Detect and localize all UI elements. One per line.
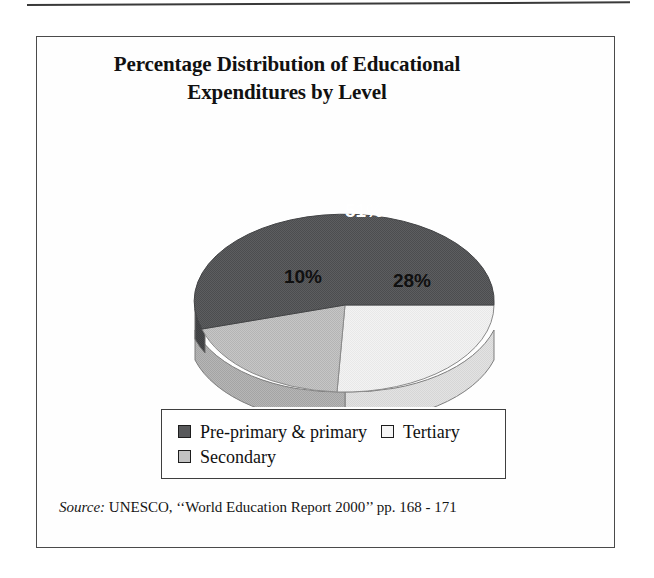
chart-frame: Percentage Distribution of Educational E… bbox=[36, 36, 615, 548]
pie-value-label-pre-primary: 51% bbox=[345, 200, 383, 221]
legend-swatch-tertiary-icon bbox=[381, 425, 394, 438]
pie-chart-plot-area: 51% 28% 10% bbox=[37, 157, 543, 407]
chart-title-line-1: Percentage Distribution of Educational bbox=[37, 51, 537, 79]
legend-swatch-pre-primary-icon bbox=[178, 425, 191, 438]
legend-label-tertiary: Tertiary bbox=[403, 423, 460, 441]
pie-value-label-secondary: 10% bbox=[284, 266, 322, 287]
chart-legend: Pre-primary & primary Tertiary Secondary bbox=[161, 409, 506, 479]
legend-label-secondary: Secondary bbox=[200, 448, 276, 466]
legend-row: Secondary bbox=[178, 444, 505, 469]
pie-value-label-tertiary: 28% bbox=[393, 270, 431, 291]
source-keyword: Source: bbox=[59, 499, 105, 515]
page-separator-rule bbox=[27, 1, 630, 6]
legend-label-pre-primary: Pre-primary & primary bbox=[200, 423, 367, 441]
legend-item-tertiary: Tertiary bbox=[381, 423, 460, 441]
source-citation: Source: UNESCO, ‘‘World Education Report… bbox=[59, 499, 457, 516]
source-text: UNESCO, ‘‘World Education Report 2000’’ … bbox=[109, 499, 457, 515]
legend-swatch-secondary-icon bbox=[178, 450, 191, 463]
legend-item-secondary: Secondary bbox=[178, 448, 276, 466]
legend-row: Pre-primary & primary Tertiary bbox=[178, 419, 505, 444]
pie-chart-svg: 51% 28% 10% bbox=[37, 157, 543, 407]
chart-title-line-2: Expenditures by Level bbox=[37, 79, 537, 107]
page-title: Percentage Distribution of Educational E… bbox=[37, 51, 537, 106]
legend-item-pre-primary: Pre-primary & primary bbox=[178, 423, 367, 441]
